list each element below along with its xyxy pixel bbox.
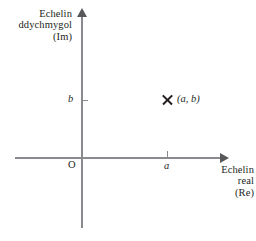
imaginary-axis-arrowhead-icon xyxy=(77,8,87,17)
argand-diagram: Echelin ddychmygol (Im) Echelin real (Re… xyxy=(0,0,256,241)
real-axis-caption: Echelin real (Re) xyxy=(198,164,254,198)
real-axis-line xyxy=(15,157,222,159)
real-axis-arrowhead-icon xyxy=(220,153,229,163)
x-axis-tick-a xyxy=(167,151,168,157)
y-axis-tick-b xyxy=(82,100,88,101)
real-axis-caption-line3: (Re) xyxy=(198,187,254,198)
imaginary-axis-caption-line2: ddychmygol xyxy=(0,19,72,30)
point-coordinate-label: (a, b) xyxy=(177,93,200,104)
imaginary-axis-caption-line3: (Im) xyxy=(0,31,72,42)
real-axis-caption-line1: Echelin xyxy=(198,164,254,175)
imaginary-axis-caption: Echelin ddychmygol (Im) xyxy=(0,8,72,42)
point-marker-x-icon xyxy=(160,93,174,107)
imaginary-axis-caption-line1: Echelin xyxy=(0,8,72,19)
real-axis-caption-line2: real xyxy=(198,175,254,186)
imaginary-axis-line xyxy=(81,16,83,228)
x-axis-tick-label-a: a xyxy=(164,160,169,171)
y-axis-tick-label-b: b xyxy=(68,93,73,104)
origin-label: O xyxy=(68,159,76,170)
